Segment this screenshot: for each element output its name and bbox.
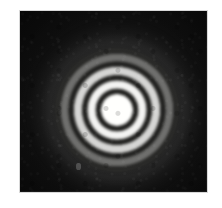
- photographic-plate: [20, 11, 207, 192]
- figure-caption: [0, 0, 1, 1]
- film-grain-texture: [20, 11, 207, 192]
- figure-root: [0, 0, 222, 208]
